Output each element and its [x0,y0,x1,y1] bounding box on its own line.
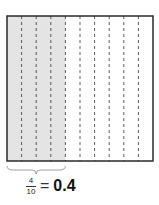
equals-sign: = [40,177,49,195]
fraction: 4 10 [26,177,36,196]
curly-brace [7,166,65,174]
numerator: 4 [29,177,33,185]
tenths-grid-diagram [0,0,159,205]
decimal-value: 0.4 [53,177,75,195]
denominator: 10 [27,188,36,196]
fraction-caption: 4 10 = 0.4 [26,177,76,196]
